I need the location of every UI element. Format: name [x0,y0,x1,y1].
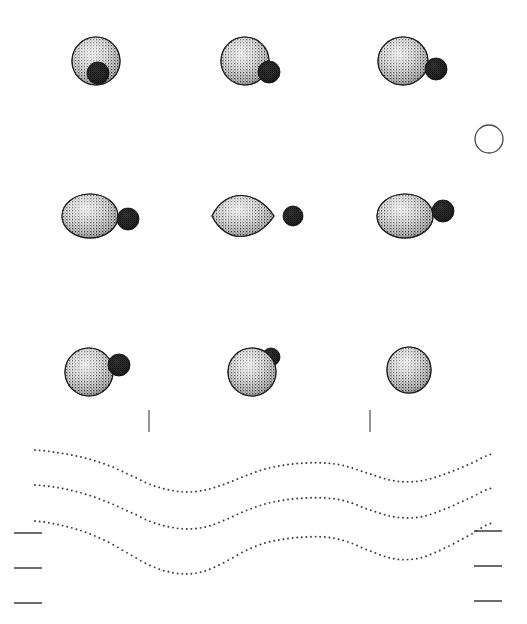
contour-dot [480,457,482,459]
contour-dot [393,516,395,518]
contour-dot [62,452,64,454]
contour-dot [200,490,202,492]
contour-dot [278,539,280,541]
contour-dot [154,522,156,524]
contour-dot [144,562,146,564]
companion-shading [425,58,447,80]
contour-dot [39,484,41,486]
contour-dot [80,492,82,494]
contour-dot [457,502,459,504]
contour-dot [338,538,340,540]
contour-dot [75,528,77,530]
contour-dot [126,510,128,512]
contour-dot [94,460,96,462]
contour-dot [296,463,298,465]
contour-dot [158,486,160,488]
contour-dot [269,502,271,504]
contour-dot [430,554,432,556]
contour-dot [149,483,151,485]
contour-dot [301,462,303,464]
contour-dot [439,549,441,551]
contour-dot [480,527,482,529]
contour-dot [453,470,455,472]
contour-dot [374,511,376,513]
contour-dot [52,451,54,453]
contour-dot [85,493,87,495]
contour-dot [351,502,353,504]
contour-dot [471,462,473,464]
contour-dot [420,557,422,559]
contour-dot [407,559,409,561]
contour-dot [361,470,363,472]
contour-dot [250,547,252,549]
companion-shading [258,61,280,83]
contour-dot [71,527,73,529]
contour-dot [255,545,257,547]
contour-dot [167,526,169,528]
figure-root [0,0,527,624]
contour-dot [117,468,119,470]
contour-dot [103,500,105,502]
contour-dot [462,466,464,468]
contour-dot [273,466,275,468]
contour-dot [457,540,459,542]
contour-dot [402,559,404,561]
contour-dot [287,464,289,466]
contour-dot [462,538,464,540]
contour-dot [89,533,91,535]
contour-dot [379,512,381,514]
contour-dot [471,496,473,498]
contour-dot [34,449,36,451]
contour-dot [407,517,409,519]
contour-dot [167,571,169,573]
contour-dot [305,536,307,538]
contour-dot [319,497,321,499]
contour-dot [324,497,326,499]
contour-dot [434,552,436,554]
contour-dot [333,463,335,465]
contour-dot [305,462,307,464]
contour-dot [246,474,248,476]
contour-dot [425,515,427,517]
contour-dot [471,533,473,535]
contour-dot [397,480,399,482]
contour-dot [158,523,160,525]
contour-dot [292,537,294,539]
contour-dot [305,497,307,499]
contour-dot [425,555,427,557]
contour-dot [135,514,137,516]
contour-dot [177,527,179,529]
contour-dot [397,516,399,518]
contour-dot [319,462,321,464]
contour-dot [121,508,123,510]
contour-dot [287,499,289,501]
contour-dot [48,450,50,452]
contour-dot [443,473,445,475]
contour-dot [296,498,298,500]
contour-dot [135,557,137,559]
contour-dot [75,455,77,457]
contour-dot [342,539,344,541]
contour-dot [181,573,183,575]
contour-dot [457,468,459,470]
contour-dot [328,462,330,464]
contour-dot [43,485,45,487]
panels-layer [62,37,454,396]
contour-dot [121,549,123,551]
contour-curves-layer [34,449,491,575]
contour-dot [43,521,45,523]
contour-dot [370,550,372,552]
contour-dot [453,543,455,545]
contour-dot [434,512,436,514]
contour-dot [108,541,110,543]
contour-dot [200,527,202,529]
companion-shading [108,354,130,376]
contour-dot [66,488,68,490]
contour-dot [108,465,110,467]
contour-dot [333,537,335,539]
contour-dot [370,473,372,475]
contour-dot [338,464,340,466]
contour-dot [420,480,422,482]
contour-dot [144,518,146,520]
contour-dot [448,472,450,474]
